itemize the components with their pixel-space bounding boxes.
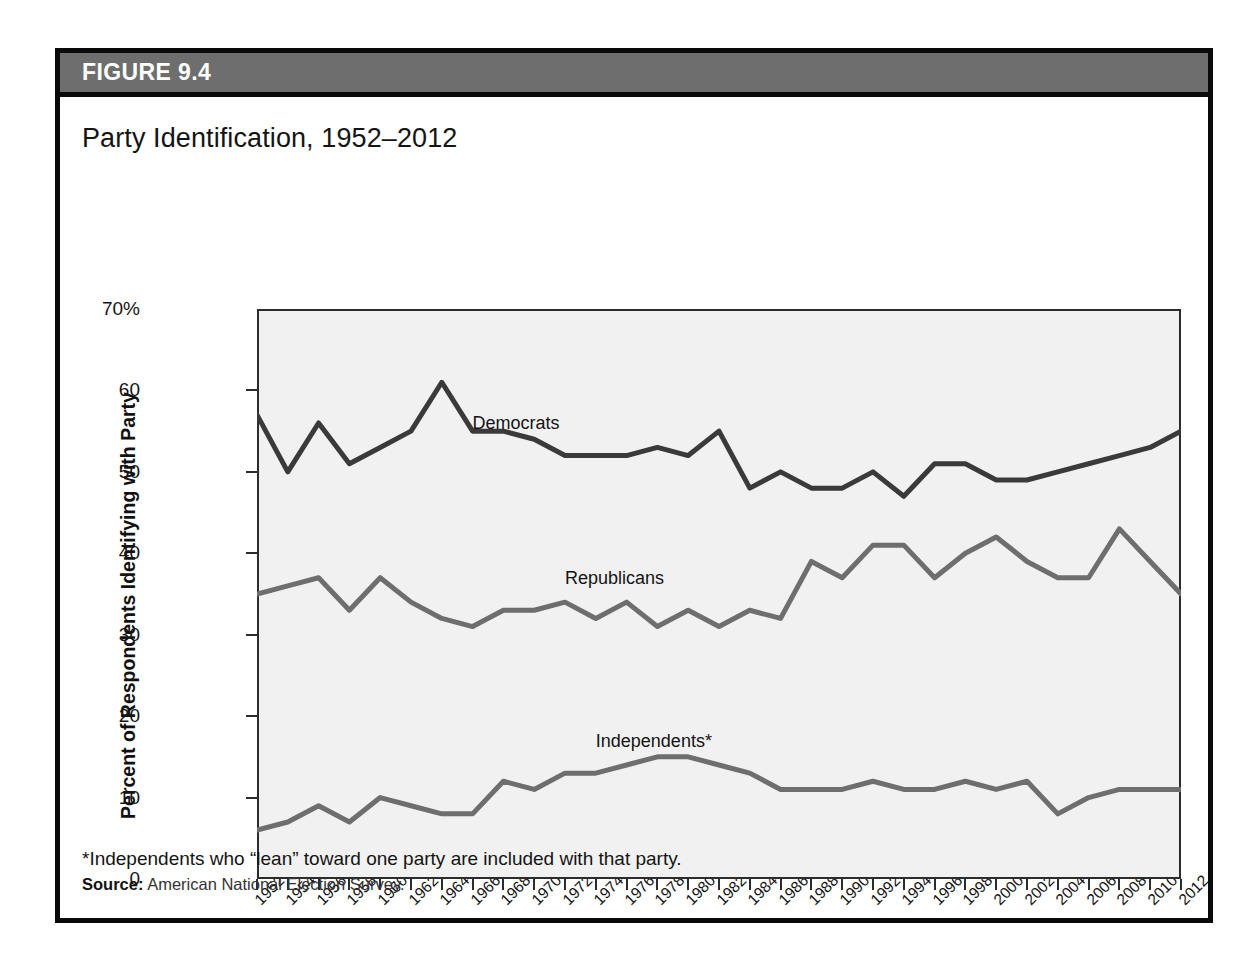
- figure-number-label: FIGURE 9.4: [82, 59, 211, 86]
- series-label-republicans: Republicans: [565, 568, 664, 589]
- y-axis-tick-label: 40: [70, 542, 140, 564]
- y-axis-tick-label: 60: [70, 379, 140, 401]
- chart-area: Percent of Respondents Identifying with …: [60, 154, 1208, 854]
- source-text: American National Election Survey.: [147, 875, 404, 893]
- source-line: Source: American National Election Surve…: [82, 875, 1186, 894]
- y-axis-label: Percent of Respondents Identifying with …: [117, 366, 140, 846]
- y-axis-tick-label: 70%: [70, 298, 140, 320]
- series-line-independents: [257, 757, 1181, 830]
- figure-title: Party Identification, 1952–2012: [60, 97, 1208, 154]
- y-axis-tick-label: 20: [70, 705, 140, 727]
- figure-notes: *Independents who “lean” toward one part…: [82, 848, 1186, 894]
- y-axis-tick-label: 30: [70, 624, 140, 646]
- figure-header-bar: FIGURE 9.4: [60, 53, 1208, 97]
- y-axis-tick-label: 10: [70, 787, 140, 809]
- y-axis-tick-label: 50: [70, 461, 140, 483]
- figure-container: FIGURE 9.4 Party Identification, 1952–20…: [55, 48, 1213, 923]
- line-chart-plot: [257, 309, 1181, 879]
- series-label-democrats: Democrats: [473, 413, 560, 434]
- source-label: Source:: [82, 875, 143, 893]
- footnote-text: *Independents who “lean” toward one part…: [82, 848, 1186, 870]
- series-line-republicans: [257, 529, 1181, 627]
- series-line-democrats: [257, 382, 1181, 496]
- series-label-independents: Independents*: [596, 731, 712, 752]
